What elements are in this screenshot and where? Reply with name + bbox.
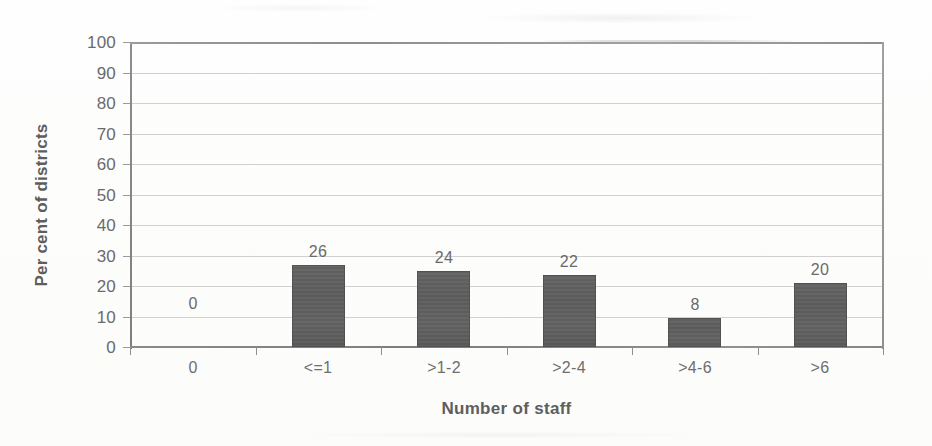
y-axis-tick-label: 90 xyxy=(70,65,116,82)
y-axis-tick-mark xyxy=(123,317,130,318)
y-axis-tick-mark xyxy=(123,164,130,165)
y-axis-tick-label: 80 xyxy=(70,95,116,112)
bar-chart: Per cent of districts 010203040506070809… xyxy=(0,0,932,446)
x-axis-tick-mark xyxy=(256,347,257,355)
y-axis-tick-label: 0 xyxy=(70,339,116,356)
x-axis-tick-label: 0 xyxy=(138,360,248,376)
y-axis-tick-mark xyxy=(123,347,130,348)
y-axis-tick: 100 xyxy=(64,42,116,43)
y-axis-tick-label: 20 xyxy=(70,278,116,295)
x-axis-tick-mark xyxy=(507,347,508,355)
bar-value-label: 26 xyxy=(283,244,353,260)
y-axis-tick: 0 xyxy=(64,347,116,348)
bar-value-label: 20 xyxy=(785,262,855,278)
x-axis-tick-label: >6 xyxy=(765,360,875,376)
y-axis-tick: 40 xyxy=(64,225,116,226)
plot-border-top xyxy=(130,42,884,44)
x-axis-tick-label: >4-6 xyxy=(640,360,750,376)
y-axis-tick: 80 xyxy=(64,103,116,104)
y-axis-tick-mark xyxy=(123,73,130,74)
bar xyxy=(417,271,470,347)
gridline xyxy=(130,317,883,318)
bar xyxy=(543,275,596,347)
y-axis-tick: 60 xyxy=(64,164,116,165)
gridline xyxy=(130,286,883,287)
gridline xyxy=(130,225,883,226)
gridline xyxy=(130,256,883,257)
x-axis-tick-label: >1-2 xyxy=(389,360,499,376)
x-axis-tick-label: >2-4 xyxy=(514,360,624,376)
y-axis-tick-mark xyxy=(123,286,130,287)
bar-value-label: 0 xyxy=(158,296,228,312)
gridline xyxy=(130,73,883,74)
bar-value-label: 24 xyxy=(409,250,479,266)
y-axis-tick: 50 xyxy=(64,195,116,196)
x-axis-tick-mark xyxy=(883,347,884,355)
y-axis-tick-label: 70 xyxy=(70,126,116,143)
y-axis-tick-mark xyxy=(123,256,130,257)
gridline xyxy=(130,103,883,104)
y-axis-title: Per cent of districts xyxy=(32,85,52,325)
y-axis-tick-mark xyxy=(123,42,130,43)
y-axis-tick: 20 xyxy=(64,286,116,287)
y-axis-tick: 30 xyxy=(64,256,116,257)
y-axis-tick: 10 xyxy=(64,317,116,318)
x-axis-tick-mark xyxy=(632,347,633,355)
y-axis-tick: 90 xyxy=(64,73,116,74)
x-axis-tick-label: <=1 xyxy=(263,360,373,376)
y-axis-tick-label: 30 xyxy=(70,248,116,265)
y-axis-tick-label: 40 xyxy=(70,217,116,234)
y-axis-tick: 70 xyxy=(64,134,116,135)
y-axis-tick-label: 50 xyxy=(70,187,116,204)
bar xyxy=(668,318,721,347)
x-axis-tick-mark xyxy=(758,347,759,355)
gridline xyxy=(130,164,883,165)
y-axis-tick-mark xyxy=(123,195,130,196)
bar xyxy=(794,283,847,347)
y-axis-tick-label: 100 xyxy=(70,34,116,51)
y-axis-tick-label: 60 xyxy=(70,156,116,173)
y-axis-tick-mark xyxy=(123,225,130,226)
plot-border-right xyxy=(882,42,884,349)
bar xyxy=(292,265,345,347)
bar-value-label: 22 xyxy=(534,254,604,270)
bar-value-label: 8 xyxy=(660,297,730,313)
y-axis-tick-mark xyxy=(123,103,130,104)
y-axis-tick-label: 10 xyxy=(70,309,116,326)
y-axis-line xyxy=(130,42,132,349)
x-axis-tick-mark xyxy=(381,347,382,355)
x-axis-title: Number of staff xyxy=(130,399,883,419)
gridline xyxy=(130,134,883,135)
y-axis-tick-mark xyxy=(123,134,130,135)
gridline xyxy=(130,195,883,196)
x-axis-tick-mark xyxy=(130,347,131,355)
